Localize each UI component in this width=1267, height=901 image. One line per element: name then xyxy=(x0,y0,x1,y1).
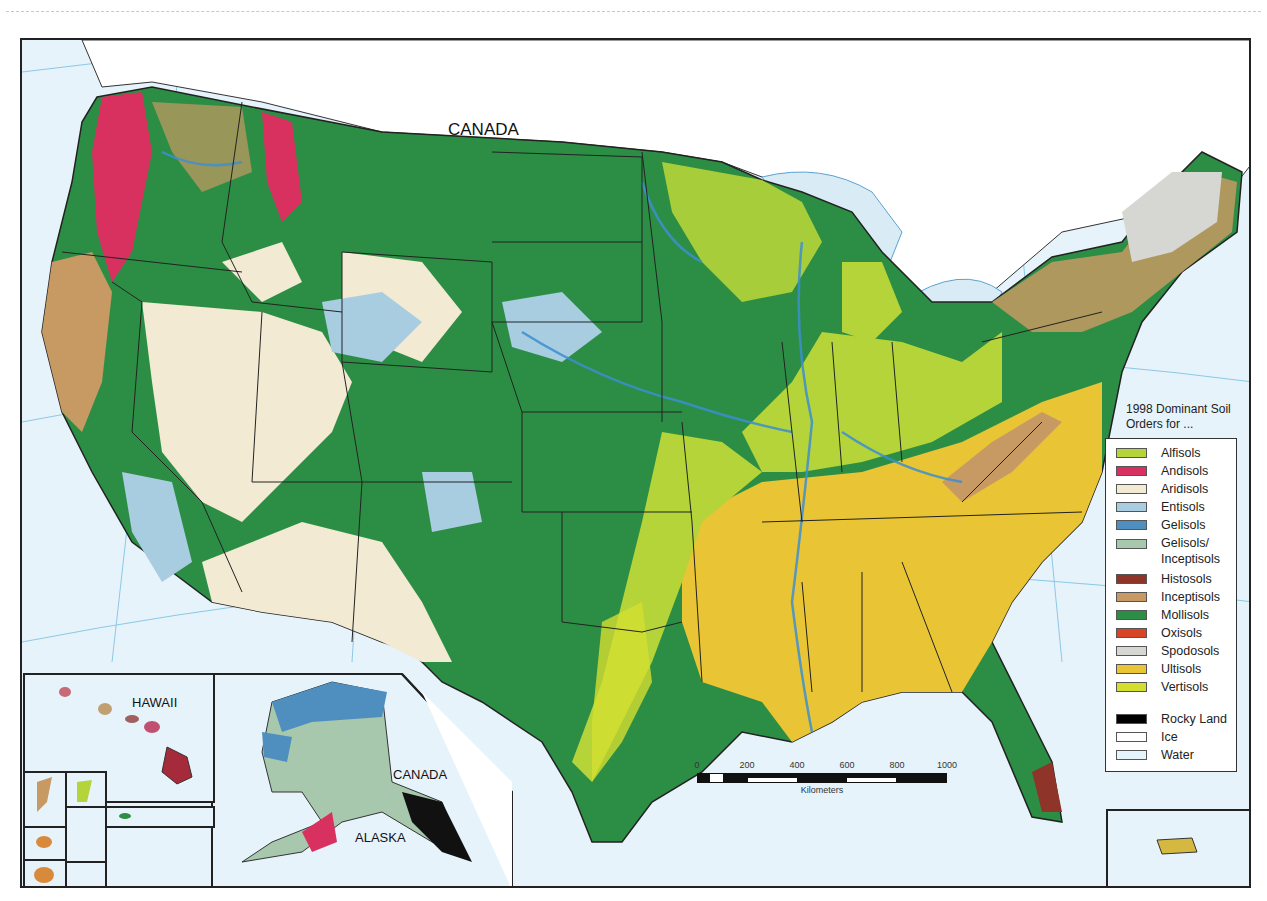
swatch-gelisols xyxy=(1116,520,1147,530)
legend-item-gelisols-inceptisols: Gelisols/ Inceptisols xyxy=(1116,535,1231,567)
legend-label: Aridisols xyxy=(1161,482,1208,496)
scale-tick: 1000 xyxy=(937,760,957,770)
legend-label: Mollisols xyxy=(1161,608,1209,622)
swatch-vertisols xyxy=(1116,682,1147,692)
legend-label: Ultisols xyxy=(1161,662,1201,676)
legend-label: Rocky Land xyxy=(1161,712,1227,726)
label-hawaii: HAWAII xyxy=(132,695,177,710)
legend-item-alfisols: Alfisols xyxy=(1116,445,1201,461)
legend-label: Gelisols xyxy=(1161,518,1205,532)
swatch-entisols xyxy=(1116,502,1147,512)
scale-tick: 200 xyxy=(739,760,754,770)
map-frame: CANADA HAWAII ALASKA CANADA xyxy=(20,38,1251,888)
swatch-mollisols xyxy=(1116,610,1147,620)
swatch-aridisols xyxy=(1116,484,1147,494)
swatch-histosols xyxy=(1116,574,1147,584)
legend-label: Entisols xyxy=(1161,500,1205,514)
scale-tick: 400 xyxy=(789,760,804,770)
label-canada-inset: CANADA xyxy=(393,767,447,782)
legend-item-water: Water xyxy=(1116,747,1194,763)
legend-item-inceptisols: Inceptisols xyxy=(1116,589,1220,605)
scale-tick: 0 xyxy=(694,760,699,770)
swatch-spodosols xyxy=(1116,646,1147,656)
legend-item-aridisols: Aridisols xyxy=(1116,481,1208,497)
page-top-rule xyxy=(6,11,1261,12)
legend-label: Inceptisols xyxy=(1161,590,1220,604)
legend-item-rocky-land: Rocky Land xyxy=(1116,711,1227,727)
legend-label: Alfisols xyxy=(1161,446,1201,460)
legend-item-mollisols: Mollisols xyxy=(1116,607,1209,623)
legend-title: 1998 Dominant Soil Orders for ... xyxy=(1126,402,1251,432)
legend-item-spodosols: Spodosols xyxy=(1116,643,1219,659)
legend-item-gelisols: Gelisols xyxy=(1116,517,1205,533)
swatch-rocky-land xyxy=(1116,714,1147,724)
label-alaska: ALASKA xyxy=(355,830,406,845)
swatch-alfisols xyxy=(1116,448,1147,458)
scale-tick: 600 xyxy=(839,760,854,770)
legend-item-histosols: Histosols xyxy=(1116,571,1212,587)
swatch-inceptisols xyxy=(1116,592,1147,602)
legend-label: Andisols xyxy=(1161,464,1208,478)
legend-item-vertisols: Vertisols xyxy=(1116,679,1208,695)
legend-label: Ice xyxy=(1161,730,1178,744)
scale-bar-graphic xyxy=(697,773,947,783)
swatch-andisols xyxy=(1116,466,1147,476)
swatch-water xyxy=(1116,750,1147,760)
scale-ticks: 0 200 400 600 800 1000 xyxy=(697,760,947,773)
legend-label: Vertisols xyxy=(1161,680,1208,694)
soil-map-canvas xyxy=(22,40,1251,888)
legend-item-entisols: Entisols xyxy=(1116,499,1205,515)
label-canada-main: CANADA xyxy=(448,120,519,140)
swatch-gelisols-inceptisols xyxy=(1116,539,1147,549)
scale-bar: 0 200 400 600 800 1000 Kilometers xyxy=(697,760,947,795)
swatch-ultisols xyxy=(1116,664,1147,674)
legend-item-ultisols: Ultisols xyxy=(1116,661,1201,677)
legend-label: Oxisols xyxy=(1161,626,1202,640)
scale-unit: Kilometers xyxy=(697,785,947,795)
swatch-oxisols xyxy=(1116,628,1147,638)
legend-item-andisols: Andisols xyxy=(1116,463,1208,479)
legend-label: Gelisols/ Inceptisols xyxy=(1161,535,1231,567)
legend-item-ice: Ice xyxy=(1116,729,1178,745)
legend-label: Water xyxy=(1161,748,1194,762)
scale-tick: 800 xyxy=(889,760,904,770)
legend: Alfisols Andisols Aridisols Entisols Gel… xyxy=(1105,438,1237,772)
legend-label: Histosols xyxy=(1161,572,1212,586)
legend-label: Spodosols xyxy=(1161,644,1219,658)
legend-item-oxisols: Oxisols xyxy=(1116,625,1202,641)
swatch-ice xyxy=(1116,732,1147,742)
